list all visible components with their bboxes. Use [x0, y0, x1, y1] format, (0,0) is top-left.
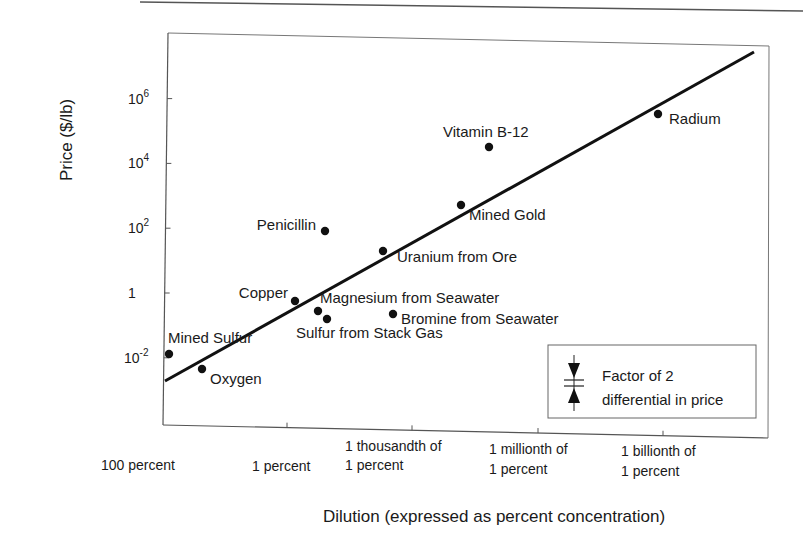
x-axis [163, 425, 768, 438]
x-tick-label-line2: 1 percent [252, 458, 310, 474]
point-marker [165, 350, 173, 358]
point-label: Oxygen [210, 370, 262, 387]
data-point-uranium-from-ore: Uranium from Ore [379, 247, 517, 265]
x-axis-ticks: 100 percent1 percent1 thousandth of1 per… [101, 423, 696, 479]
legend: Factor of 2 differential in price [548, 345, 756, 418]
x-axis-title: Dilution (expressed as percent concentra… [323, 507, 665, 526]
point-marker [379, 247, 387, 255]
y-tick-label: 106 [128, 88, 150, 107]
x-tick-label-line1: 1 thousandth of [345, 438, 442, 454]
point-label: Uranium from Ore [397, 248, 517, 265]
point-marker [291, 297, 299, 305]
x-tick-label-line2: 1 percent [621, 463, 679, 479]
point-marker [654, 110, 662, 118]
data-point-penicillin: Penicillin [257, 216, 329, 235]
point-marker [323, 315, 331, 323]
point-label: Vitamin B-12 [443, 123, 529, 140]
data-point-bromine-from-seawater: Bromine from Seawater [389, 310, 559, 327]
point-marker [198, 365, 206, 373]
data-point-radium: Radium [654, 110, 721, 127]
data-point-mined-gold: Mined Gold [457, 201, 546, 223]
y-tick-label: 1 [128, 285, 136, 301]
point-label: Magnesium from Seawater [320, 289, 499, 306]
y-axis [163, 33, 168, 425]
point-label: Radium [669, 110, 721, 127]
x-tick-label-line1: 1 millionth of [489, 441, 568, 457]
point-marker [457, 201, 465, 209]
trend-line [165, 52, 754, 381]
point-label: Mined Gold [469, 206, 546, 223]
point-marker [389, 310, 397, 318]
page-top-rule [140, 2, 803, 11]
x-tick-label-line2: 1 percent [345, 457, 403, 473]
point-label: Mined Sulfur [168, 329, 252, 346]
data-point-mined-sulfur: Mined Sulfur [165, 329, 252, 358]
data-point-vitamin-b-12: Vitamin B-12 [443, 123, 529, 151]
x-tick-label-line1: 1 billionth of [621, 443, 696, 459]
data-point-copper: Copper [239, 284, 299, 305]
x-tick-label-line2: 1 percent [489, 461, 547, 477]
data-point-oxygen: Oxygen [198, 365, 262, 387]
chart-svg: 106104102110-2 100 percent1 percent1 tho… [0, 0, 807, 533]
point-marker [485, 143, 493, 151]
point-marker [314, 307, 322, 315]
y-tick-label: 10-2 [124, 347, 149, 366]
point-marker [321, 227, 329, 235]
point-label: Copper [239, 284, 288, 301]
legend-line-1: Factor of 2 [602, 367, 674, 384]
point-label: Penicillin [257, 216, 316, 233]
y-tick-label: 104 [128, 152, 150, 171]
y-tick-label: 102 [128, 217, 150, 236]
legend-line-2: differential in price [602, 391, 723, 408]
point-label: Bromine from Seawater [401, 310, 559, 327]
y-axis-title: Price ($/lb) [57, 99, 76, 181]
x-tick-label-line2: 100 percent [101, 457, 175, 473]
